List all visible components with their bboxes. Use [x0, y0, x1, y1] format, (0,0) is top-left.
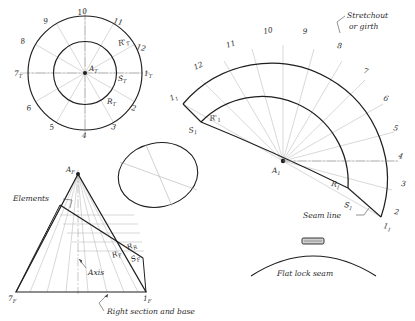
plan-division-8: 8: [20, 36, 27, 46]
plan-label-r-prime-t: R'T: [116, 36, 131, 49]
stretchout-division-5: 5: [393, 123, 400, 133]
plan-label-s-t: ST: [118, 74, 127, 84]
stretchout-left-edge: [183, 104, 201, 122]
annotation-flat-lock-seam: Flat lock seam: [276, 269, 333, 278]
stretchout-division-11: 11: [225, 38, 237, 49]
stretchout-division-8: 8: [337, 41, 343, 50]
stretchout-division-10: 10: [263, 25, 274, 36]
plan-center-label: AT: [88, 64, 98, 74]
stretchout-label-r-prime-1: R'1: [208, 113, 221, 125]
annotation-stretchout-line1: Stretchout: [347, 11, 389, 20]
plan-division-1: 1T: [144, 69, 153, 79]
plan-center-point: [83, 71, 87, 75]
plan-division-5: 5: [49, 122, 56, 132]
elevation-group: AF 7F 1F RF RR SF Elements Axis Right se…: [8, 165, 195, 316]
stretchout-leader: [337, 16, 345, 33]
plan-division-10: 10: [77, 6, 88, 17]
stretchout-division-3: 3: [401, 179, 407, 188]
stretchout-taper-curve: [201, 122, 348, 188]
stretchout-label-s-1-left: S1: [188, 125, 198, 136]
elevation-base-right-label: 1F: [143, 294, 152, 304]
stretchout-division-9: 9: [302, 27, 308, 36]
elevation-apex-label: AF: [65, 165, 75, 175]
plan-division-11: 11: [113, 16, 124, 27]
elevation-cut-left: [33, 205, 60, 258]
drawing-sheet: AT R'T ST RT 1T 2 3 4 5 6 7T 8 9 10 11 1…: [0, 0, 415, 321]
annotation-seam-line: Seam line: [303, 211, 342, 220]
flat-lock-seam-group: Flat lock seam: [251, 238, 376, 278]
stretchout-division-1-right: 11: [382, 221, 392, 232]
annotation-elements: Elements: [12, 194, 49, 203]
elevation-apex-point: [76, 172, 80, 176]
stretchout-division-6: 6: [382, 93, 390, 103]
plan-division-7: 7T: [14, 69, 23, 79]
right-section-group: [112, 135, 204, 214]
elevation-base-left-label: 7F: [8, 294, 17, 304]
elevation-elements: [16, 174, 146, 292]
stretchout-division-4: 4: [397, 151, 404, 161]
plan-division-3: 3: [111, 122, 117, 132]
elevation-label-r-f: RF: [109, 248, 123, 261]
plan-division-9: 9: [42, 16, 49, 26]
annotation-stretchout-line2: or girth: [349, 22, 379, 31]
stretchout-division-1-left: 11: [168, 91, 179, 103]
right-section-ellipse: [112, 135, 204, 214]
plan-label-r-t: RT: [106, 97, 117, 107]
stretchout-division-2: 2: [393, 207, 400, 217]
stretchout-right-edge: [348, 188, 381, 217]
stretchout-group: A1 Stretchout or girth Seam line R'1 R1 …: [168, 11, 406, 233]
annotation-axis: Axis: [87, 268, 104, 277]
plan-division-2: 2: [130, 103, 138, 113]
plan-division-4: 4: [81, 131, 87, 140]
annotation-right-section-base: Right section and base: [106, 307, 195, 316]
stretchout-outer-arc: [183, 63, 387, 217]
stretchout-center-label: A1: [271, 166, 281, 176]
elevation-cut-lower-left: [16, 258, 33, 292]
plan-division-6: 6: [26, 103, 32, 113]
elevation-label-s-f: SF: [129, 252, 141, 265]
stretchout-division-7: 7: [363, 66, 370, 76]
stretchout-label-s-1-right: S1: [343, 200, 353, 211]
stretchout-division-12: 12: [192, 60, 205, 72]
plan-view-group: AT R'T ST RT 1T 2 3 4 5 6 7T 8 9 10 11 1…: [14, 6, 153, 140]
